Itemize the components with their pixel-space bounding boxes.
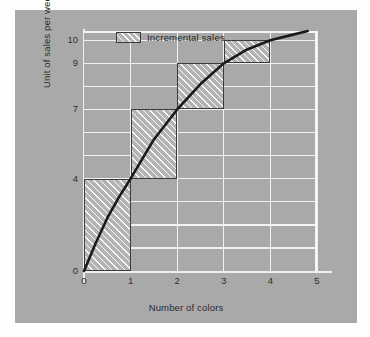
x-tick-label: 3 — [216, 275, 232, 286]
legend: Incremental sales — [116, 32, 225, 43]
x-tick-label: 1 — [123, 275, 139, 286]
x-axis-line — [83, 271, 332, 273]
y-axis-title: Unit of sales per week — [41, 0, 52, 88]
x-tick-label: 5 — [309, 275, 325, 286]
y-tick-label: 4 — [56, 173, 78, 184]
legend-label: Incremental sales — [147, 32, 225, 43]
y-tick-label: 0 — [56, 265, 78, 276]
chart-figure: 047910 012345 Number of colors Unit of s… — [0, 0, 370, 337]
x-tick-label: 0 — [76, 275, 92, 286]
x-tick-label: 2 — [169, 275, 185, 286]
x-axis-title: Number of colors — [15, 302, 357, 313]
x-tick-label: 4 — [262, 275, 278, 286]
y-tick-label: 7 — [56, 103, 78, 114]
y-tick-label: 10 — [56, 34, 78, 45]
chart-card: 047910 012345 Number of colors Unit of s… — [15, 10, 357, 323]
sales-response-curve — [84, 31, 317, 271]
legend-hatch-swatch-icon — [116, 32, 141, 43]
y-tick-label: 9 — [56, 57, 78, 68]
plot-area — [84, 31, 317, 271]
